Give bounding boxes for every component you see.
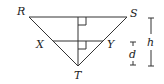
dimension-d: d xyxy=(129,42,136,65)
right-angle-mark-top xyxy=(78,17,86,25)
right-angle-mark-middle xyxy=(78,41,86,49)
label-d: d xyxy=(129,48,136,61)
triangle-diagram: R S X Y T h d xyxy=(0,0,164,84)
label-t: T xyxy=(74,69,83,82)
label-y: Y xyxy=(107,38,116,51)
dimension-h: h xyxy=(147,18,154,66)
label-r: R xyxy=(16,5,25,18)
label-x: X xyxy=(35,38,45,51)
label-s: S xyxy=(130,7,138,20)
label-h: h xyxy=(147,36,154,49)
